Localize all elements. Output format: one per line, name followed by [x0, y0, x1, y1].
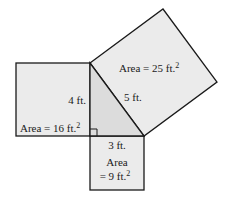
bottom-area-label-line2: = 9 ft.2: [100, 169, 131, 182]
bottom-area-label-line1: Area: [106, 156, 127, 168]
bottom-side-label: 3 ft.: [108, 139, 126, 151]
pythagorean-diagram: 4 ft. Area = 16 ft.2 3 ft. Area = 9 ft.2…: [0, 0, 234, 203]
hypotenuse-area-label: Area = 25 ft.2: [119, 61, 179, 74]
hypotenuse-side-label: 5 ft.: [124, 91, 142, 103]
left-side-label: 4 ft.: [68, 94, 86, 106]
left-area-label: Area = 16 ft.2: [20, 121, 80, 134]
